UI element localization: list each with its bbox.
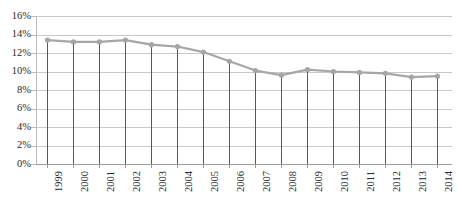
y-axis-tick — [31, 35, 36, 36]
x-axis-tick — [333, 164, 334, 168]
y-axis-tick-label: 4% — [0, 122, 31, 132]
x-axis-tick-label: 2004 — [183, 171, 194, 192]
x-axis-tick-label: 2000 — [79, 171, 90, 192]
y-axis-tick-label: 14% — [0, 29, 31, 39]
data-point-marker — [71, 39, 76, 44]
x-axis-tick-label: 1999 — [53, 171, 64, 192]
y-axis-tick-label: 6% — [0, 103, 31, 113]
y-axis-tick — [31, 72, 36, 73]
data-point-marker — [201, 49, 206, 54]
data-point-marker — [45, 37, 50, 42]
x-axis-tick — [255, 164, 256, 168]
x-axis-tick — [385, 164, 386, 168]
line-chart: 16%14%12%10%8%6%4%2%0% 19992000200120022… — [0, 0, 459, 206]
x-axis-tick — [151, 164, 152, 168]
data-point-marker — [357, 70, 362, 75]
x-axis-tick — [47, 164, 48, 168]
x-axis-tick-label: 2014 — [443, 171, 454, 192]
x-axis-tick-label: 2003 — [157, 171, 168, 192]
data-series — [36, 16, 452, 164]
y-axis-tick — [31, 164, 36, 165]
y-axis-tick-label: 16% — [0, 11, 31, 21]
x-axis-tick — [411, 164, 412, 168]
x-axis-tick — [177, 164, 178, 168]
data-point-marker — [435, 74, 440, 79]
x-axis-tick-label: 2008 — [287, 171, 298, 192]
x-axis-tick-label: 2005 — [209, 171, 220, 192]
x-axis-tick-label: 2007 — [261, 171, 272, 192]
y-axis-tick — [31, 53, 36, 54]
x-axis-tick-label: 2009 — [313, 171, 324, 192]
x-axis-tick — [437, 164, 438, 168]
y-axis-tick-label: 8% — [0, 85, 31, 95]
y-axis-tick — [31, 16, 36, 17]
series-line — [47, 40, 437, 77]
data-point-marker — [383, 71, 388, 76]
plot-area — [36, 16, 452, 164]
x-axis-line — [36, 164, 452, 165]
data-point-marker — [175, 44, 180, 49]
x-axis-tick — [125, 164, 126, 168]
y-axis-tick-label: 12% — [0, 48, 31, 58]
data-point-marker — [279, 73, 284, 78]
data-point-marker — [97, 39, 102, 44]
data-point-marker — [123, 37, 128, 42]
x-axis-tick-label: 2011 — [365, 171, 376, 192]
x-axis-tick — [229, 164, 230, 168]
x-axis-tick-label: 2012 — [391, 171, 402, 192]
y-axis-tick — [31, 109, 36, 110]
y-axis-tick — [31, 127, 36, 128]
y-axis-tick — [31, 90, 36, 91]
x-axis-tick-label: 2006 — [235, 171, 246, 192]
y-axis-tick-label: 10% — [0, 66, 31, 76]
x-axis-tick-label: 2002 — [131, 171, 142, 192]
data-point-marker — [227, 59, 232, 64]
x-axis-tick — [203, 164, 204, 168]
x-axis-tick — [307, 164, 308, 168]
x-axis-tick — [359, 164, 360, 168]
y-axis-tick-label: 2% — [0, 140, 31, 150]
x-axis-tick-label: 2013 — [417, 171, 428, 192]
x-axis-tick — [73, 164, 74, 168]
x-axis-tick-label: 2001 — [105, 171, 116, 192]
data-point-marker — [331, 69, 336, 74]
x-axis-tick — [281, 164, 282, 168]
data-point-marker — [149, 42, 154, 47]
data-point-marker — [253, 68, 258, 73]
data-point-marker — [305, 67, 310, 72]
x-axis-tick — [99, 164, 100, 168]
y-axis-tick — [31, 146, 36, 147]
y-axis-labels: 16%14%12%10%8%6%4%2%0% — [0, 0, 34, 206]
data-point-marker — [409, 74, 414, 79]
x-axis-tick-label: 2010 — [339, 171, 350, 192]
y-axis-tick-label: 0% — [0, 159, 31, 169]
